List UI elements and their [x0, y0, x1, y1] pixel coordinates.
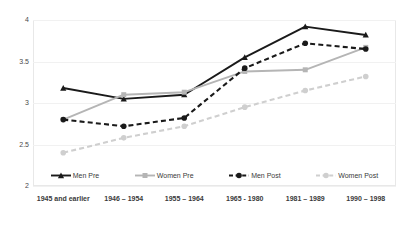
x-axis: 1945 and earlier1946 – 19541955 – 196419…	[33, 192, 396, 206]
legend-swatch-icon	[316, 171, 336, 180]
x-axis-tick-label: 1965 - 1980	[215, 192, 276, 206]
data-point-marker	[60, 117, 66, 123]
data-point-marker	[121, 92, 126, 97]
data-point-marker	[181, 123, 187, 129]
data-point-marker	[142, 173, 147, 178]
data-point-marker	[181, 115, 187, 121]
legend-item-women-post[interactable]: Women Post	[316, 171, 378, 180]
series-line	[63, 47, 366, 119]
data-point-marker	[323, 172, 329, 178]
data-point-marker	[363, 46, 369, 52]
data-point-marker	[363, 74, 369, 80]
series-women-post	[60, 74, 368, 156]
data-point-marker	[60, 150, 66, 156]
legend-item-men-pre[interactable]: Men Pre	[51, 171, 99, 180]
data-point-marker	[121, 123, 127, 129]
legend-item-women-pre[interactable]: Women Pre	[135, 171, 194, 180]
data-point-marker	[302, 40, 308, 46]
legend-item-label: Men Post	[251, 172, 281, 179]
x-axis-tick-label: 1990 – 1998	[336, 192, 397, 206]
x-axis-tick-label: 1946 – 1954	[94, 192, 155, 206]
legend-swatch-icon	[229, 171, 249, 180]
legend-item-label: Women Post	[338, 172, 378, 179]
data-point-marker	[242, 104, 248, 110]
data-point-marker	[182, 90, 187, 95]
legend-item-label: Men Pre	[73, 172, 99, 179]
x-axis-tick-label: 1981 – 1989	[275, 192, 336, 206]
x-axis-tick-label: 1945 and earlier	[33, 192, 94, 206]
legend-swatch-icon	[51, 171, 71, 180]
legend-item-men-post[interactable]: Men Post	[229, 171, 281, 180]
data-point-marker	[302, 88, 308, 94]
data-point-marker	[236, 172, 242, 178]
line-chart: 22.533.54 Men PreWomen PreMen PostWomen …	[0, 0, 408, 226]
x-axis-tick-label: 1955 – 1964	[154, 192, 215, 206]
legend-item-label: Women Pre	[157, 172, 194, 179]
series-women-pre	[61, 45, 369, 122]
data-point-marker	[242, 65, 248, 71]
data-point-marker	[303, 67, 308, 72]
data-point-marker	[121, 135, 127, 141]
series-line	[63, 43, 366, 126]
chart-legend: Men PreWomen PreMen PostWomen Post	[33, 166, 396, 184]
series-line	[63, 76, 366, 152]
legend-swatch-icon	[135, 171, 155, 180]
